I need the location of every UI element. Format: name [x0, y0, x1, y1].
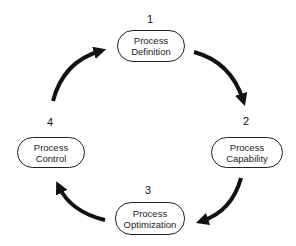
arrow-2-to-3 [202, 178, 241, 221]
node-label-line1: Process [134, 35, 168, 46]
arrow-1-to-2 [194, 52, 243, 100]
node-process-optimization: Process Optimization [115, 202, 185, 235]
step-number-3: 3 [138, 184, 158, 196]
node-label-line1: Process [34, 142, 68, 153]
arrow-4-to-1 [53, 51, 100, 101]
node-process-control: Process Control [17, 137, 85, 168]
node-label-line2: Capability [226, 153, 268, 164]
node-process-capability: Process Capability [211, 137, 283, 168]
node-process-definition: Process Definition [117, 30, 185, 62]
step-number-1: 1 [140, 13, 160, 25]
node-label-line2: Definition [131, 46, 171, 57]
step-number-4: 4 [40, 116, 60, 128]
node-label-line2: Control [36, 153, 67, 164]
node-label-line1: Process [133, 208, 167, 219]
arrow-3-to-4 [59, 187, 105, 220]
node-label-line1: Process [230, 142, 264, 153]
node-label-line2: Optimization [124, 219, 177, 230]
step-number-2: 2 [236, 115, 256, 127]
cycle-diagram: 1 2 3 4 Process Definition Process Capab… [0, 0, 296, 246]
